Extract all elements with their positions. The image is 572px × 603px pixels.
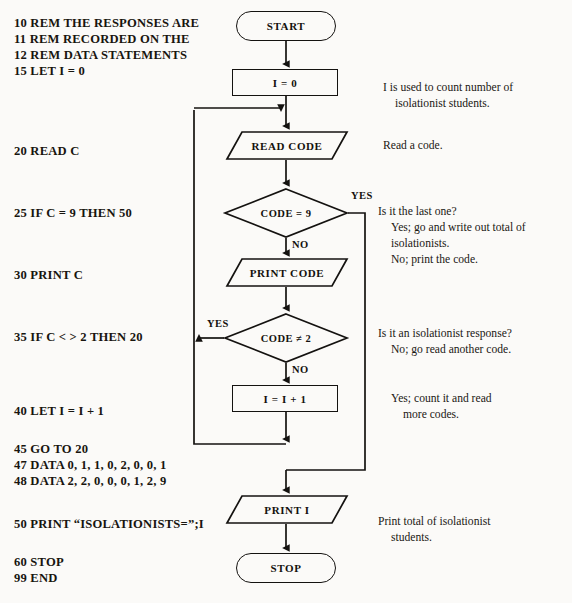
- code-line: 10 REM THE RESPONSES ARE: [14, 16, 199, 31]
- flow-node-label: I = 0: [273, 77, 298, 89]
- flow-node-stop[interactable]: STOP: [236, 553, 336, 583]
- flow-node-init[interactable]: I = 0: [232, 69, 338, 96]
- flow-node-label: PRINT I: [226, 495, 348, 524]
- flow-node-label: PRINT CODE: [226, 258, 348, 287]
- flow-node-decision-code2[interactable]: CODE ≠ 2: [224, 313, 348, 363]
- flow-node-label: START: [267, 20, 305, 32]
- annotation-line: Read a code.: [383, 139, 443, 152]
- flow-node-start[interactable]: START: [236, 11, 336, 41]
- flow-node-label: CODE ≠ 2: [224, 313, 348, 363]
- code-line: 35 IF C < > 2 THEN 20: [14, 330, 143, 345]
- flow-node-label: CODE = 9: [224, 188, 348, 238]
- flow-node-print-i[interactable]: PRINT I: [226, 495, 348, 524]
- annotation-line: No; print the code.: [391, 253, 478, 266]
- code-line: 40 LET I = I + 1: [14, 404, 104, 419]
- flowchart-page: 10 REM THE RESPONSES ARE 11 REM RECORDED…: [0, 0, 572, 603]
- branch-label-no-code2: NO: [292, 364, 309, 375]
- code-line: 60 STOP: [14, 555, 64, 570]
- flow-node-read-code[interactable]: READ CODE: [226, 131, 348, 160]
- annotation-line: Yes; go and write out total of: [391, 221, 526, 234]
- annotation-line: Is it an isolationist response?: [378, 327, 512, 340]
- annotation-line: I is used to count number of: [383, 81, 513, 94]
- code-line: 99 END: [14, 571, 58, 586]
- annotation-line: isolationists.: [391, 237, 449, 250]
- flow-node-label: I = I + 1: [264, 393, 307, 405]
- code-line: 48 DATA 2, 2, 0, 0, 0, 1, 2, 9: [14, 474, 166, 489]
- code-line: 50 PRINT “ISOLATIONISTS=”;I: [14, 517, 204, 532]
- code-line: 12 REM DATA STATEMENTS: [14, 48, 187, 63]
- flow-node-print-code[interactable]: PRINT CODE: [226, 258, 348, 287]
- annotation-line: Is it the last one?: [378, 205, 457, 218]
- code-line: 15 LET I = 0: [14, 64, 85, 79]
- code-line: 47 DATA 0, 1, 1, 0, 2, 0, 0, 1: [14, 458, 166, 473]
- code-line: 25 IF C = 9 THEN 50: [14, 206, 132, 221]
- annotation-line: No; go read another code.: [391, 343, 511, 356]
- branch-label-yes-code9: YES: [351, 190, 373, 201]
- annotation-line: isolationist students.: [395, 97, 490, 110]
- annotation-line: Print total of isolationist: [378, 515, 490, 528]
- flow-node-decision-code9[interactable]: CODE = 9: [224, 188, 348, 238]
- annotation-line: more codes.: [403, 408, 459, 421]
- code-line: 45 GO TO 20: [14, 442, 88, 457]
- flow-node-label: STOP: [271, 562, 302, 574]
- branch-label-yes-code2: YES: [207, 318, 229, 329]
- annotation-line: students.: [391, 531, 432, 544]
- code-line: 11 REM RECORDED ON THE: [14, 32, 190, 47]
- flow-node-increment[interactable]: I = I + 1: [232, 385, 338, 412]
- flow-node-label: READ CODE: [226, 131, 348, 160]
- annotation-line: Yes; count it and read: [391, 392, 492, 405]
- code-line: 20 READ C: [14, 144, 79, 159]
- branch-label-no-code9: NO: [292, 239, 309, 250]
- code-line: 30 PRINT C: [14, 268, 83, 283]
